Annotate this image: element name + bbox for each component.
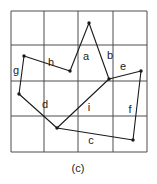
figure-c-diagram: abehgdifc(c)	[0, 0, 157, 184]
vertex-peak	[87, 21, 90, 24]
vertex-lambda_left	[68, 69, 71, 72]
edge-c	[57, 128, 133, 140]
vertex-e_right	[139, 69, 142, 72]
diagram-svg: abehgdifc(c)	[0, 0, 157, 184]
edge-label-g: g	[13, 64, 19, 76]
edge-label-f: f	[128, 103, 132, 115]
vertex-g_bottom	[17, 92, 20, 95]
edge-label-d: d	[42, 98, 48, 110]
edge-label-b: b	[107, 49, 113, 61]
figure-caption: (c)	[72, 162, 85, 174]
vertex-junction_bottom	[55, 126, 58, 129]
edge-label-i: i	[88, 101, 90, 113]
edge-label-e: e	[120, 60, 126, 72]
vertex-g_top	[22, 54, 25, 57]
edge-g	[19, 56, 24, 94]
edge-label-h: h	[48, 56, 54, 68]
edge-label-a: a	[83, 50, 90, 62]
edge-a	[70, 23, 89, 71]
edge-i	[57, 79, 109, 128]
edge-e	[109, 71, 141, 79]
edge-d	[19, 94, 57, 128]
edge-label-c: c	[88, 134, 94, 146]
vertex-f_bottom	[131, 138, 134, 141]
vertex-junction_right	[107, 77, 110, 80]
